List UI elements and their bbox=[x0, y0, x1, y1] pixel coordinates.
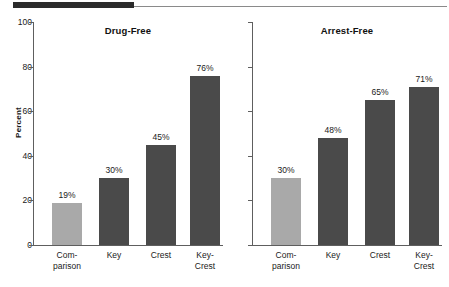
panel-arrest-free: Arrest-Free 30% 48% 65% 71% Com- parison bbox=[252, 0, 442, 287]
bar-crest: 65% bbox=[365, 100, 395, 245]
bar-crest: 45% bbox=[146, 145, 176, 245]
x-tick-label-line1: Key bbox=[306, 250, 360, 261]
bar-key-crest: 76% bbox=[190, 76, 220, 246]
y-tick-label-group: 100 80 60 40 20 0 bbox=[8, 0, 32, 287]
x-tick-label-line2: Crest bbox=[178, 261, 232, 272]
figure-canvas: Percent 100 80 60 40 20 0 Drug-Free 19% … bbox=[0, 0, 449, 287]
x-axis-line bbox=[252, 245, 442, 246]
x-tick-label-line2: parison bbox=[40, 261, 94, 272]
plot-area: 19% 30% 45% 76% bbox=[33, 22, 223, 245]
plot-area: 30% 48% 65% 71% bbox=[252, 22, 442, 245]
bar-value-label: 19% bbox=[58, 190, 75, 200]
x-tick-label-comparison: Com- parison bbox=[40, 250, 94, 272]
x-tick-label-key: Key bbox=[87, 250, 141, 261]
x-tick-label-key-crest: Key- Crest bbox=[178, 250, 232, 272]
bar-value-label: 30% bbox=[105, 165, 122, 175]
x-tick-label-line1: Key- bbox=[397, 250, 449, 261]
bar-value-label: 48% bbox=[324, 125, 341, 135]
x-tick-label-comparison: Com- parison bbox=[259, 250, 313, 272]
panel-drug-free: Drug-Free 19% 30% 45% 76% Com- parison bbox=[33, 0, 223, 287]
bar-comparison: 19% bbox=[52, 203, 82, 245]
x-tick-label-line2: parison bbox=[259, 261, 313, 272]
x-tick-label-line1: Key- bbox=[178, 250, 232, 261]
x-tick-label-key: Key bbox=[306, 250, 360, 261]
bar-value-label: 65% bbox=[371, 87, 388, 97]
bar-value-label: 30% bbox=[277, 165, 294, 175]
x-axis-line bbox=[33, 245, 223, 246]
x-tick-label-line1: Com- bbox=[40, 250, 94, 261]
bar-key: 48% bbox=[318, 138, 348, 245]
bar-key: 30% bbox=[99, 178, 129, 245]
y-axis-tick bbox=[29, 245, 33, 246]
bar-comparison: 30% bbox=[271, 178, 301, 245]
bar-value-label: 76% bbox=[196, 63, 213, 73]
y-axis-tick bbox=[248, 245, 252, 246]
bar-key-crest: 71% bbox=[409, 87, 439, 245]
x-tick-label-line1: Key bbox=[87, 250, 141, 261]
x-tick-label-line2: Crest bbox=[397, 261, 449, 272]
x-tick-label-line1: Com- bbox=[259, 250, 313, 261]
x-tick-label-key-crest: Key- Crest bbox=[397, 250, 449, 272]
bar-value-label: 71% bbox=[415, 74, 432, 84]
bar-value-label: 45% bbox=[152, 132, 169, 142]
